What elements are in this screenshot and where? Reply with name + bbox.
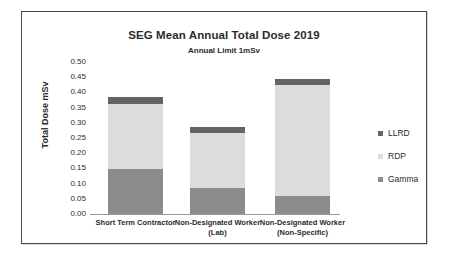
y-axis-tick-label: 0.30: [48, 119, 86, 127]
legend-label: LLRD: [388, 128, 410, 138]
bar-segment-rdp[interactable]: [190, 133, 245, 188]
x-axis-category-label: Non-Designated Worker(Lab): [170, 218, 266, 238]
legend-swatch-icon: [378, 154, 383, 159]
bar-segment-gamma[interactable]: [275, 196, 330, 214]
bar-segment-rdp[interactable]: [275, 85, 330, 196]
legend-label: RDP: [388, 151, 406, 161]
bar-segment-gamma[interactable]: [108, 169, 163, 214]
figure-frame: SEG Mean Annual Total Dose 2019 Annual L…: [21, 11, 427, 244]
category-label-line2: (Lab): [170, 228, 266, 238]
y-axis-tick-label: 0.50: [48, 58, 86, 66]
x-axis-line: [90, 214, 340, 215]
bar-segment-llrd[interactable]: [108, 97, 163, 104]
y-axis-tick-label: 0.05: [48, 195, 86, 203]
chart-subtitle: Annual Limit 1mSv: [22, 46, 426, 55]
chart-title: SEG Mean Annual Total Dose 2019: [22, 29, 426, 41]
y-axis-tick-label: 0.35: [48, 104, 86, 112]
y-axis-tick-label: 0.20: [48, 149, 86, 157]
legend-item[interactable]: RDP: [378, 151, 448, 161]
bar-stack[interactable]: [190, 127, 245, 214]
legend-item[interactable]: LLRD: [378, 128, 448, 138]
y-axis-tick-label: 0.00: [48, 210, 86, 218]
legend-item[interactable]: Gamma: [378, 174, 448, 184]
legend-label: Gamma: [388, 174, 418, 184]
legend-swatch-icon: [378, 177, 383, 182]
bar-stack[interactable]: [108, 97, 163, 214]
category-label-line1: Non-Designated Worker: [255, 218, 351, 228]
y-axis-tick-label: 0.25: [48, 134, 86, 142]
plot-area: [90, 62, 340, 214]
chart-legend: LLRDRDPGamma: [378, 128, 448, 197]
legend-swatch-icon: [378, 131, 383, 136]
category-label-line2: (Non-Specific): [255, 228, 351, 238]
x-axis-category-label: Non-Designated Worker(Non-Specific): [255, 218, 351, 238]
y-axis-tick-label: 0.40: [48, 88, 86, 96]
y-axis-tick-label: 0.45: [48, 73, 86, 81]
bar-segment-rdp[interactable]: [108, 104, 163, 170]
y-axis-tick-label: 0.15: [48, 164, 86, 172]
category-label-line1: Non-Designated Worker: [170, 218, 266, 228]
bar-segment-gamma[interactable]: [190, 188, 245, 214]
chart-page: SEG Mean Annual Total Dose 2019 Annual L…: [0, 0, 451, 258]
y-axis-title: Total Dose mSv: [40, 70, 50, 160]
bar-stack[interactable]: [275, 79, 330, 214]
y-axis-tick-label: 0.10: [48, 180, 86, 188]
